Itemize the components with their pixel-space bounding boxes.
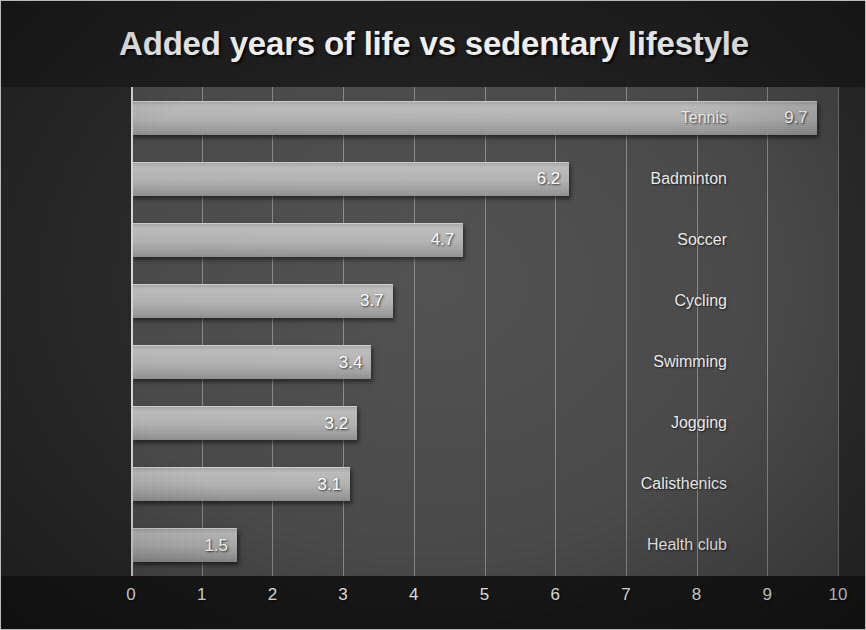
category-label: Soccer	[677, 223, 727, 257]
bar-value-label: 6.2	[537, 169, 561, 189]
gridline	[202, 87, 203, 576]
page-title: Added years of life vs sedentary lifesty…	[119, 25, 749, 63]
x-tick-label: 3	[323, 585, 363, 605]
bar-row: 6.2	[131, 162, 569, 196]
gridline	[555, 87, 556, 576]
gridline	[697, 87, 698, 576]
bar: 3.1	[131, 467, 350, 501]
bar-row: 3.2	[131, 406, 357, 440]
gridline	[343, 87, 344, 576]
x-tick-label: 5	[465, 585, 505, 605]
gridline	[838, 87, 839, 576]
bar-value-label: 3.1	[318, 475, 342, 495]
bar: 1.5	[131, 528, 237, 562]
x-tick-label: 4	[394, 585, 434, 605]
bar: 6.2	[131, 162, 569, 196]
y-axis-label-band	[1, 87, 131, 576]
chart-title-band: Added years of life vs sedentary lifesty…	[1, 1, 866, 87]
x-tick-label: 2	[252, 585, 292, 605]
x-tick-label: 9	[747, 585, 787, 605]
gridline	[626, 87, 627, 576]
x-tick-label: 10	[818, 585, 858, 605]
category-label: Swimming	[653, 345, 727, 379]
x-tick-label: 6	[535, 585, 575, 605]
bar-value-label: 3.2	[325, 414, 349, 434]
bar: 4.7	[131, 223, 463, 257]
x-tick-label: 7	[606, 585, 646, 605]
bar-value-label: 4.7	[431, 230, 455, 250]
y-axis-line	[131, 87, 133, 576]
category-label: Health club	[647, 528, 727, 562]
x-tick-label: 8	[677, 585, 717, 605]
bar-chart-figure: Added years of life vs sedentary lifesty…	[0, 0, 866, 630]
gridline	[485, 87, 486, 576]
bar-row: 4.7	[131, 223, 463, 257]
bar-value-label: 3.4	[339, 353, 363, 373]
bar: 3.7	[131, 284, 393, 318]
category-label: Badminton	[651, 162, 728, 196]
category-label: Tennis	[681, 101, 727, 135]
bar-value-label: 3.7	[360, 291, 384, 311]
plot-area: 9.76.24.73.73.43.23.11.5	[131, 87, 838, 576]
gridline	[414, 87, 415, 576]
bar: 3.4	[131, 345, 371, 379]
x-tick-label: 0	[111, 585, 151, 605]
plot-right-margin	[838, 87, 866, 576]
x-tick-label: 1	[182, 585, 222, 605]
bar-row: 3.4	[131, 345, 371, 379]
category-label: Calisthenics	[641, 467, 727, 501]
category-label: Jogging	[671, 406, 727, 440]
gridline	[272, 87, 273, 576]
bar: 3.2	[131, 406, 357, 440]
bar-row: 3.7	[131, 284, 393, 318]
gridline	[767, 87, 768, 576]
bar-row: 3.1	[131, 467, 350, 501]
category-label: Cycling	[675, 284, 727, 318]
bar-value-label: 1.5	[204, 536, 228, 556]
bar-value-label: 9.7	[784, 108, 808, 128]
bar-row: 1.5	[131, 528, 237, 562]
